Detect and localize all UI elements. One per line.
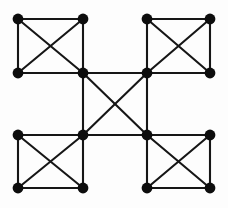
- graph-node[interactable]: [205, 14, 216, 25]
- graph-node[interactable]: [78, 68, 89, 79]
- graph-node[interactable]: [142, 14, 153, 25]
- graph-node[interactable]: [142, 68, 153, 79]
- graph-node[interactable]: [142, 183, 153, 194]
- graph-node[interactable]: [78, 130, 89, 141]
- graph-node[interactable]: [13, 14, 24, 25]
- graph-node[interactable]: [205, 68, 216, 79]
- graph-node[interactable]: [78, 183, 89, 194]
- graph-node[interactable]: [13, 68, 24, 79]
- graph-node[interactable]: [142, 130, 153, 141]
- graph-node[interactable]: [13, 130, 24, 141]
- graph-node[interactable]: [205, 183, 216, 194]
- graph-node[interactable]: [13, 183, 24, 194]
- graph-node[interactable]: [205, 130, 216, 141]
- graph-canvas: [0, 0, 228, 208]
- graph-figure: [0, 0, 228, 208]
- graph-node[interactable]: [78, 14, 89, 25]
